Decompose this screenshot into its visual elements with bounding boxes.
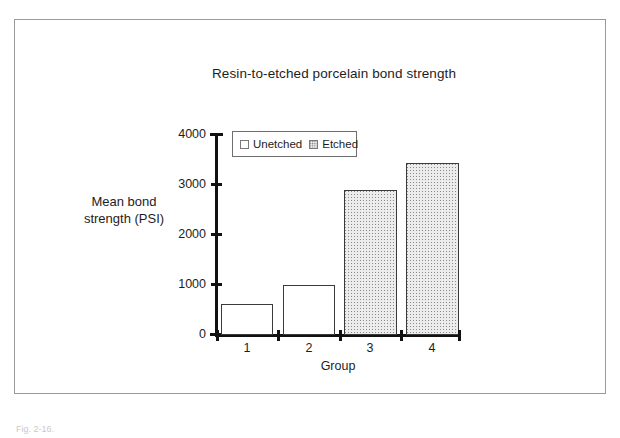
y-tick-label-0: 0 xyxy=(160,327,206,341)
x-tick-label-2: 2 xyxy=(289,341,329,355)
plot-area: 4000 3000 2000 1000 0 Mean bond strength… xyxy=(0,0,620,438)
legend-swatch-unetched-icon xyxy=(240,140,249,149)
y-axis-title-line1: Mean bond xyxy=(56,193,192,210)
legend-label-unetched: Unetched xyxy=(253,138,302,150)
y-tick-label-4000: 4000 xyxy=(160,127,206,141)
x-tick-2 xyxy=(339,330,342,341)
y-axis-title: Mean bond strength (PSI) xyxy=(56,193,192,227)
x-tick-label-3: 3 xyxy=(350,341,390,355)
y-tick-label-3000: 3000 xyxy=(160,177,206,191)
legend-item-unetched: Unetched xyxy=(240,138,302,150)
y-tick-3000 xyxy=(211,183,222,186)
bar-group-1 xyxy=(221,304,273,335)
y-tick-label-2000: 2000 xyxy=(160,227,206,241)
y-tick-label-1000: 1000 xyxy=(160,277,206,291)
chart-legend: Unetched Etched xyxy=(232,131,357,157)
x-axis-title: Group xyxy=(215,359,461,373)
legend-swatch-etched-icon xyxy=(309,140,318,149)
x-tick-end xyxy=(458,330,461,341)
x-tick-start xyxy=(216,330,219,341)
figure-page: Resin-to-etched porcelain bond strength … xyxy=(0,0,620,438)
bar-group-2 xyxy=(283,285,335,335)
legend-label-etched: Etched xyxy=(322,138,358,150)
figure-caption: Fig. 2-16. xyxy=(16,424,576,436)
legend-item-etched: Etched xyxy=(309,138,358,150)
x-tick-1 xyxy=(277,330,280,341)
x-tick-3 xyxy=(400,330,403,341)
y-axis-title-line2: strength (PSI) xyxy=(56,210,192,227)
bar-group-4 xyxy=(406,163,459,335)
y-tick-1000 xyxy=(211,283,222,286)
y-tick-4000 xyxy=(210,133,223,136)
bar-group-3 xyxy=(344,190,397,335)
x-tick-label-4: 4 xyxy=(412,341,452,355)
x-tick-label-1: 1 xyxy=(227,341,267,355)
y-tick-2000 xyxy=(211,233,222,236)
